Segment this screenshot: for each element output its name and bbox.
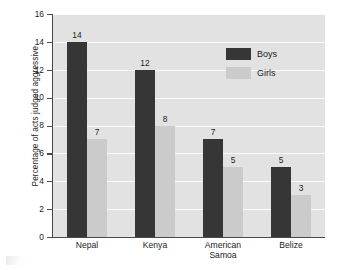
y-axis-tick-label: 8 <box>22 121 44 129</box>
x-axis-label-line: Kenya <box>121 241 189 251</box>
y-axis-tick <box>47 153 53 154</box>
gridline <box>53 126 325 127</box>
y-axis-tick <box>47 126 53 127</box>
y-axis-tick-label: 10 <box>22 93 44 101</box>
x-axis-label-line: Belize <box>257 241 325 251</box>
y-axis-tick <box>47 70 53 71</box>
x-axis-label-nepal: Nepal <box>53 241 121 251</box>
x-axis-label-line: Samoa <box>189 251 257 261</box>
y-axis-tick <box>47 237 53 238</box>
x-axis-label-line: Nepal <box>53 241 121 251</box>
y-axis-tick <box>47 14 53 15</box>
legend-item-boys: Boys <box>226 46 302 65</box>
y-axis-tick <box>47 209 53 210</box>
bar-boys-belize <box>271 167 291 237</box>
bar-value-label: 14 <box>61 31 93 39</box>
bar-boys-kenya <box>135 70 155 237</box>
y-axis-tick <box>47 42 53 43</box>
scan-artifact-smudge <box>6 256 28 265</box>
x-axis-label-kenya: Kenya <box>121 241 189 251</box>
x-axis-line <box>52 237 325 238</box>
y-axis-tick-label: 16 <box>22 10 44 18</box>
y-axis-tick-label: 14 <box>22 38 44 46</box>
bar-chart-figure: Percentage of acts judged aggressive 024… <box>0 0 345 270</box>
bar-value-label: 5 <box>217 156 249 164</box>
y-axis-tick-label: 0 <box>22 233 44 241</box>
y-axis-tick-label: 4 <box>22 177 44 185</box>
y-axis-tick-label: 12 <box>22 66 44 74</box>
legend-swatch-girls <box>226 67 251 79</box>
bar-value-label: 12 <box>129 59 161 67</box>
gridline <box>53 98 325 99</box>
x-axis-label-american-samoa: AmericanSamoa <box>189 241 257 260</box>
y-axis-tick <box>47 181 53 182</box>
bar-value-label: 5 <box>265 156 297 164</box>
y-axis-tick <box>47 98 53 99</box>
bar-girls-belize <box>291 195 311 237</box>
y-axis-tick-label: 2 <box>22 205 44 213</box>
legend-label-boys: Boys <box>257 48 277 60</box>
legend-label-girls: Girls <box>257 67 276 79</box>
gridline <box>53 14 325 15</box>
legend: BoysGirls <box>226 46 302 84</box>
bar-value-label: 3 <box>285 184 317 192</box>
bar-girls-nepal <box>87 139 107 237</box>
x-axis-label-belize: Belize <box>257 241 325 251</box>
bar-girls-kenya <box>155 126 175 238</box>
legend-item-girls: Girls <box>226 65 302 84</box>
bar-value-label: 7 <box>81 128 113 136</box>
bar-value-label: 8 <box>149 115 181 123</box>
bar-boys-nepal <box>67 42 87 237</box>
gridline <box>53 42 325 43</box>
bar-boys-american-samoa <box>203 139 223 237</box>
bar-value-label: 7 <box>197 128 229 136</box>
y-axis-tick-label: 6 <box>22 149 44 157</box>
bar-girls-american-samoa <box>223 167 243 237</box>
legend-swatch-boys <box>226 48 251 60</box>
